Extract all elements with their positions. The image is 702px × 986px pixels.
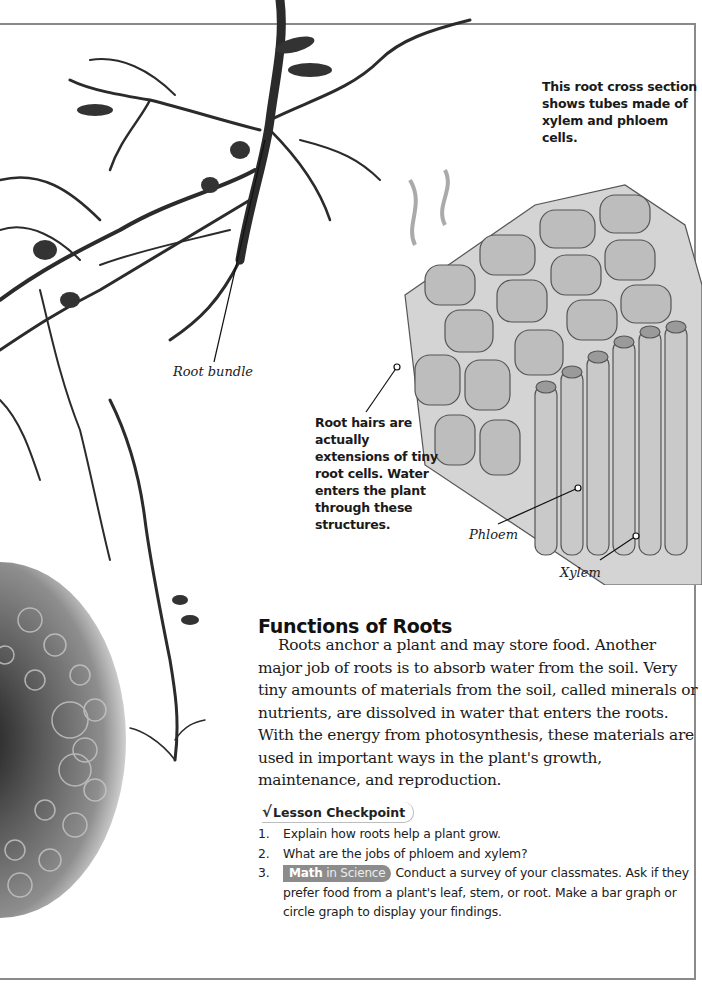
question-body: Math in ScienceConduct a survey of your … <box>283 863 698 922</box>
question-number: 3. <box>258 863 283 922</box>
checkmark-icon: √ <box>262 803 272 821</box>
question-number: 1. <box>258 824 283 844</box>
checkpoint-questions: 1. Explain how roots help a plant grow. … <box>258 824 698 922</box>
question-item: 1. Explain how roots help a plant grow. <box>258 824 698 844</box>
phloem-label: Phloem <box>469 527 518 542</box>
badge-rest: in Science <box>323 866 386 880</box>
badge-bold: Math <box>289 866 323 880</box>
xylem-label: Xylem <box>560 565 601 580</box>
paragraph-text: Roots anchor a plant and may store food.… <box>258 634 698 792</box>
cell-micrograph <box>0 560 130 920</box>
question-text: Explain how roots help a plant grow. <box>283 824 698 844</box>
page-frame-bottom <box>0 978 696 980</box>
root-hairs-caption: Root hairs are actually extensions of ti… <box>315 414 445 533</box>
question-item: 2. What are the jobs of phloem and xylem… <box>258 844 698 864</box>
question-number: 2. <box>258 844 283 864</box>
checkpoint-label: Lesson Checkpoint <box>273 805 405 820</box>
math-in-science-badge: Math in Science <box>283 865 391 882</box>
root-bundle-label: Root bundle <box>173 364 253 379</box>
cross-section-caption: This root cross section shows tubes made… <box>542 78 702 146</box>
question-text: What are the jobs of phloem and xylem? <box>283 844 698 864</box>
question-item: 3. Math in ScienceConduct a survey of yo… <box>258 863 698 922</box>
body-paragraph: Roots anchor a plant and may store food.… <box>258 634 698 792</box>
lesson-checkpoint-header: √ Lesson Checkpoint <box>262 802 414 823</box>
